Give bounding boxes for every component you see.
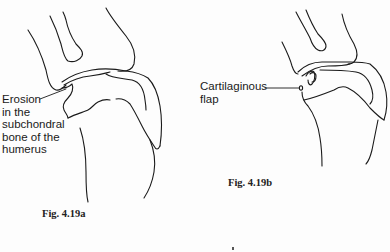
textbook-figure-page: Erosion in the subchondral bone of the h…	[0, 0, 390, 252]
figure-caption-4-19a: Fig. 4.19a	[42, 208, 85, 219]
acromion-outline	[282, 42, 298, 74]
humerus-shaft-left	[302, 92, 322, 166]
scan-artifact-mark	[232, 247, 234, 250]
glenoid-outline	[342, 14, 357, 64]
coracoid-process	[296, 10, 326, 51]
cartilaginous-flap-label: Cartilaginous flap	[200, 80, 267, 105]
flap-fragment	[299, 86, 302, 90]
humerus-shaft-right	[366, 120, 378, 164]
erosion-label: Erosion in the subchondral bone of the h…	[2, 93, 65, 156]
figure-caption-4-19b: Fig. 4.19b	[228, 177, 272, 188]
